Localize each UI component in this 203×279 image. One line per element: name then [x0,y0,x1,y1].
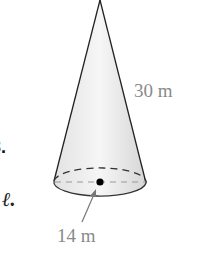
slant-height-label: 30 m [134,81,173,100]
base-center-dot [96,178,103,185]
radius-label: 14 m [57,226,96,245]
cone-diagram [0,0,203,279]
cone-body [54,0,146,195]
problem-number: 3. [0,138,6,156]
variable-ell-text: ℓ. [2,189,16,209]
